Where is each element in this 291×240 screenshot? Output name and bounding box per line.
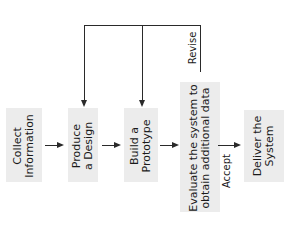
revise-label: Revise — [187, 26, 199, 70]
feedback-to-prototype-vertical — [142, 25, 143, 105]
arrowhead-down-icon — [81, 100, 87, 107]
arrowhead-right-icon — [172, 142, 179, 148]
arrowhead-down-icon — [139, 100, 145, 107]
node-prototype-line2: Prototype — [141, 106, 153, 186]
node-design: Produce a Design — [71, 106, 95, 186]
node-prototype: Build a Prototype — [129, 106, 153, 186]
node-deliver-line2: System — [264, 106, 276, 186]
feedback-right-vertical — [200, 25, 201, 72]
node-collect: Collect Information — [12, 106, 36, 186]
node-evaluate-line2: obtain additional data — [200, 84, 212, 212]
arrowhead-right-icon — [234, 142, 241, 148]
node-design-line2: a Design — [83, 106, 95, 186]
node-evaluate: Evaluate the system to obtain additional… — [188, 84, 212, 212]
arrowhead-right-icon — [114, 142, 121, 148]
accept-label: Accept — [221, 149, 233, 193]
node-deliver: Deliver the System — [252, 106, 276, 186]
feedback-to-design-vertical — [84, 25, 85, 105]
arrowhead-right-icon — [57, 142, 64, 148]
node-collect-line2: Information — [24, 106, 36, 186]
